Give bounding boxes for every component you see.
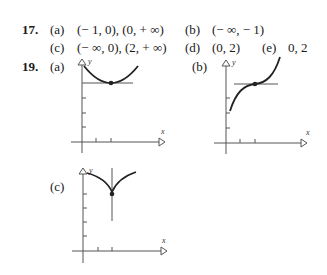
graph-19c: y x [72,166,167,263]
inflection-point [253,82,258,87]
x-axis-arrow-icon [159,138,165,146]
x-axis-arrow-icon [161,247,167,255]
x-axis-label: x [305,128,310,137]
graph-19b: y x [214,57,310,154]
y-axis-arrow-icon [222,60,230,66]
y-axis-label: y [231,58,236,67]
x-axis-arrow-icon [301,139,307,147]
graphs-canvas: y x y x y x [0,0,327,275]
x-axis-label: x [160,127,165,136]
x-axis-label: x [161,236,166,245]
graph-19a: y x [71,57,165,153]
curve [84,66,138,83]
y-axis-label: y [87,57,92,66]
critical-point [109,81,114,86]
y-axis-arrow-icon [79,168,87,174]
y-axis-arrow-icon [78,59,86,65]
cusp-point [110,192,115,197]
